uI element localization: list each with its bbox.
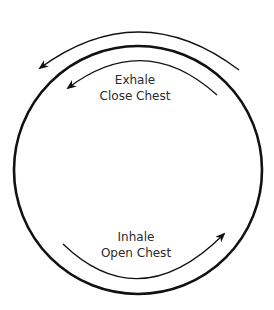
open-chest-text: Open Chest <box>0 245 273 261</box>
close-chest-text: Close Chest <box>0 88 272 104</box>
inhale-text: Inhale <box>0 229 273 245</box>
outer-exhale-arrow <box>40 32 239 70</box>
breathing-cycle-diagram <box>0 0 274 310</box>
exhale-label: Exhale Close Chest <box>0 72 272 104</box>
inhale-label: Inhale Open Chest <box>0 229 273 261</box>
exhale-text: Exhale <box>0 72 272 88</box>
